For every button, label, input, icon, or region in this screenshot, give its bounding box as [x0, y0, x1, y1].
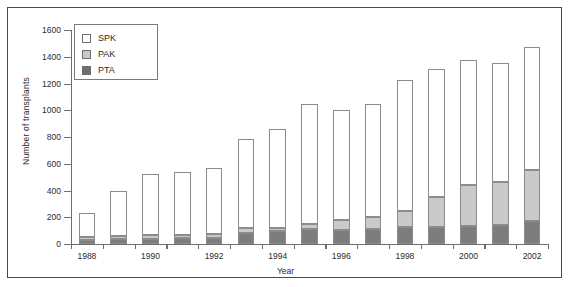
- y-tick-label: 600: [47, 159, 61, 169]
- bar-segment-spk: [333, 110, 350, 220]
- bar-segment-spk: [492, 63, 509, 182]
- y-tick-mark: [64, 84, 71, 85]
- x-tick-label: 1988: [77, 251, 96, 261]
- x-tick-label: 2000: [459, 251, 478, 261]
- bar-segment-spk: [269, 129, 286, 228]
- y-tick-label: 1000: [42, 105, 61, 115]
- bar-segment-spk: [460, 60, 477, 185]
- bar-segment-pta: [301, 229, 318, 244]
- y-tick-mark: [64, 110, 71, 111]
- x-tick-mark: [516, 244, 517, 249]
- y-tick-mark: [64, 244, 71, 245]
- bar-segment-pak: [460, 185, 477, 226]
- x-tick-mark: [548, 244, 549, 249]
- chart-frame: Number of transplants Year 0200400600800…: [7, 7, 562, 278]
- bar-segment-pak: [333, 220, 350, 230]
- bar-2000: [460, 60, 477, 244]
- bar-segment-pta: [524, 221, 541, 244]
- bar-segment-pak: [365, 217, 382, 229]
- x-tick-mark: [103, 244, 104, 249]
- bar-1992: [206, 168, 223, 244]
- y-tick-mark: [64, 137, 71, 138]
- legend-label-spk: SPK: [98, 33, 116, 43]
- y-tick-label: 1400: [42, 52, 61, 62]
- x-tick-mark: [389, 244, 390, 249]
- bar-1990: [142, 174, 159, 244]
- bar-1999: [428, 69, 445, 244]
- y-tick-mark: [64, 217, 71, 218]
- bar-1994: [269, 129, 286, 244]
- bar-segment-pta: [492, 225, 509, 244]
- y-tick-mark: [64, 57, 71, 58]
- x-tick-mark: [421, 244, 422, 249]
- x-tick-label: 1996: [332, 251, 351, 261]
- y-tick-label: 400: [47, 186, 61, 196]
- legend-label-pak: PAK: [98, 49, 115, 59]
- bar-segment-pta: [460, 226, 477, 244]
- bar-2002: [524, 47, 541, 244]
- bar-1996: [333, 110, 350, 244]
- y-tick-mark: [64, 191, 71, 192]
- bar-segment-pak: [524, 170, 541, 220]
- x-tick-mark: [198, 244, 199, 249]
- legend-swatch-pta-icon: [82, 66, 91, 75]
- bar-segment-pak: [428, 197, 445, 226]
- bar-segment-pta: [365, 229, 382, 244]
- chart-plot-wrapper: Number of transplants Year 0200400600800…: [8, 8, 561, 277]
- x-tick-mark: [262, 244, 263, 249]
- bar-segment-pta: [110, 239, 127, 244]
- y-tick-label: 0: [56, 239, 61, 249]
- y-tick-mark: [64, 30, 71, 31]
- bar-segment-spk: [301, 104, 318, 224]
- x-tick-mark: [71, 244, 72, 249]
- bar-segment-spk: [397, 80, 414, 211]
- y-axis-label: Number of transplants: [21, 51, 31, 191]
- legend-item-pak: PAK: [82, 46, 157, 62]
- bar-1998: [397, 80, 414, 245]
- y-tick-mark: [64, 164, 71, 165]
- x-tick-label: 1990: [141, 251, 160, 261]
- bar-1997: [365, 104, 382, 244]
- legend-item-pta: PTA: [82, 62, 157, 78]
- bar-segment-spk: [206, 168, 223, 234]
- x-tick-mark: [453, 244, 454, 249]
- x-tick-mark: [230, 244, 231, 249]
- bar-segment-spk: [79, 213, 96, 237]
- bar-2001: [492, 63, 509, 244]
- legend-item-spk: SPK: [82, 30, 157, 46]
- bar-segment-spk: [365, 104, 382, 217]
- bar-1993: [238, 139, 255, 244]
- y-tick-label: 1200: [42, 79, 61, 89]
- bar-segment-pta: [428, 227, 445, 244]
- bar-segment-pta: [79, 240, 96, 244]
- bar-segment-pta: [269, 231, 286, 244]
- x-tick-label: 1992: [205, 251, 224, 261]
- x-tick-label: 1998: [395, 251, 414, 261]
- x-axis-label: Year: [8, 266, 563, 276]
- x-tick-mark: [294, 244, 295, 249]
- y-tick-label: 200: [47, 212, 61, 222]
- x-tick-label: 1994: [268, 251, 287, 261]
- bar-segment-pta: [174, 238, 191, 244]
- bar-segment-pak: [397, 211, 414, 228]
- y-tick-label: 800: [47, 132, 61, 142]
- x-tick-mark: [325, 244, 326, 249]
- x-tick-mark: [484, 244, 485, 249]
- bar-segment-spk: [174, 172, 191, 234]
- bar-segment-pta: [333, 230, 350, 244]
- bar-segment-pak: [492, 182, 509, 225]
- bar-segment-pta: [206, 238, 223, 244]
- y-tick-label: 1600: [42, 25, 61, 35]
- legend-swatch-pak-icon: [82, 50, 91, 59]
- chart-legend: SPK PAK PTA: [74, 24, 158, 80]
- bar-segment-pta: [238, 233, 255, 244]
- x-tick-mark: [357, 244, 358, 249]
- bar-1988: [79, 213, 96, 244]
- x-axis-line: [71, 244, 548, 245]
- x-tick-mark: [135, 244, 136, 249]
- bar-segment-spk: [110, 191, 127, 236]
- bar-segment-spk: [142, 174, 159, 235]
- bar-segment-spk: [524, 47, 541, 170]
- legend-swatch-spk-icon: [82, 34, 91, 43]
- x-tick-label: 2002: [523, 251, 542, 261]
